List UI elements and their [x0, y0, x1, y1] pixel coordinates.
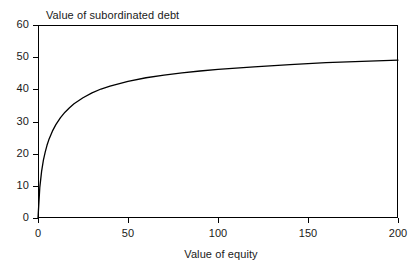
y-tick-mark [33, 154, 38, 155]
y-tick-label: 0 [3, 212, 29, 223]
x-tick-mark [398, 218, 399, 223]
x-tick-mark [38, 218, 39, 223]
x-tick-mark [308, 218, 309, 223]
x-axis-label-text: Value of equity [184, 248, 257, 260]
y-tick-label: 50 [3, 51, 29, 62]
x-tick-mark [128, 218, 129, 223]
x-tick-mark [218, 218, 219, 223]
x-tick-label: 200 [378, 227, 418, 239]
x-tick-label: 150 [288, 227, 328, 239]
y-tick-label: 60 [3, 19, 29, 30]
x-tick-label: 100 [198, 227, 238, 239]
y-tick-mark [33, 25, 38, 26]
y-tick-mark [33, 186, 38, 187]
x-tick-label: 0 [18, 227, 58, 239]
chart-title: Value of subordinated debt [46, 9, 179, 22]
x-axis-label: Value of equity [0, 248, 420, 261]
plot-area [38, 25, 398, 218]
y-tick-label: 30 [3, 116, 29, 127]
y-tick-mark [33, 122, 38, 123]
y-tick-label: 20 [3, 148, 29, 159]
chart-figure: Value of subordinated debt 6050403020100… [0, 0, 420, 273]
x-tick-label: 50 [108, 227, 148, 239]
y-tick-label: 40 [3, 83, 29, 94]
y-tick-label: 10 [3, 180, 29, 191]
y-tick-mark [33, 89, 38, 90]
y-tick-mark [33, 57, 38, 58]
